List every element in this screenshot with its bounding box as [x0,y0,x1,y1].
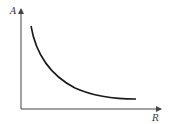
curve [31,26,136,99]
diagram: A R [0,0,170,124]
x-axis-label: R [151,113,159,123]
y-axis-label: A [9,6,17,16]
